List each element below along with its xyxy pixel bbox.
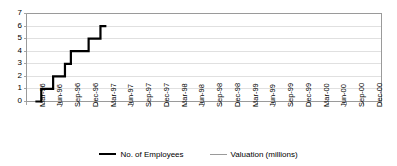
legend-label: Valuation (millions)	[231, 150, 298, 159]
chart-container: 76543210 Mar-96Jun-96Sep-96Dec-96Mar-97J…	[0, 0, 397, 166]
x-tick-label: Dec-00	[376, 82, 384, 106]
y-tick-label: 5	[8, 34, 22, 42]
x-tick-label: Mar-98	[181, 83, 189, 107]
x-tick-label: Dec-97	[163, 82, 171, 106]
legend-item[interactable]: Valuation (millions)	[210, 150, 298, 159]
x-tick-label: Sep-96	[74, 82, 82, 106]
x-tick-label: Jun-97	[127, 84, 135, 107]
chart-legend: No. of EmployeesValuation (millions)	[0, 147, 397, 161]
legend-item[interactable]: No. of Employees	[99, 150, 183, 159]
x-tick-label: Sep-97	[145, 82, 153, 106]
x-tick-label: Dec-98	[234, 82, 242, 106]
x-tick-label: Mar-00	[323, 83, 331, 107]
x-tick-label: Mar-99	[252, 83, 260, 107]
x-tick-label: Dec-99	[305, 82, 313, 106]
y-tick-label: 3	[8, 59, 22, 67]
x-tick-label: Sep-99	[287, 82, 295, 106]
x-tick-label: Jun-99	[269, 84, 277, 107]
y-tick-label: 0	[8, 97, 22, 105]
y-tick-label: 7	[8, 9, 22, 17]
y-tick-label: 4	[8, 47, 22, 55]
x-tick-label: Mar-96	[39, 83, 47, 107]
x-tick-label: Sep-00	[358, 82, 366, 106]
y-tick-label: 6	[8, 22, 22, 30]
x-tick-label: Mar-97	[110, 83, 118, 107]
y-tick-label: 2	[8, 72, 22, 80]
plot-area	[0, 0, 397, 166]
legend-label: No. of Employees	[120, 150, 183, 159]
legend-swatch-icon	[210, 154, 227, 155]
x-tick-label: Jun-00	[340, 84, 348, 107]
legend-swatch-icon	[99, 153, 116, 155]
x-tick-label: Jun-96	[56, 84, 64, 107]
y-tick-label: 1	[8, 84, 22, 92]
x-tick-label: Dec-96	[92, 82, 100, 106]
x-tick-label: Sep-98	[216, 82, 224, 106]
x-tick-label: Jun-98	[198, 84, 206, 107]
